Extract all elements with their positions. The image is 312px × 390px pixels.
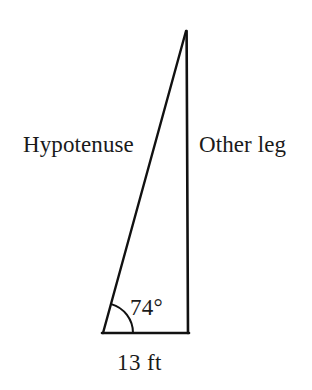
- other-leg-line: [187, 31, 188, 333]
- hypotenuse-label: Hypotenuse: [23, 133, 134, 156]
- base-length-label: 13 ft: [117, 351, 162, 374]
- triangle-drawing: [0, 0, 312, 390]
- triangle-figure: Hypotenuse Other leg 74° 13 ft: [0, 0, 312, 390]
- figure-background: [0, 0, 312, 390]
- angle-measure-label: 74°: [130, 296, 163, 319]
- other-leg-label: Other leg: [199, 133, 286, 156]
